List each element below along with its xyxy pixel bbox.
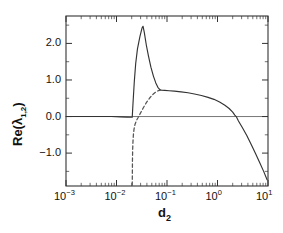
x-tick-label-4: 101 [256,190,272,202]
figure-container: 10−310−210−1100101 −1.00.01.02.0 d2 Re(λ… [0,0,283,233]
x-axis-major-ticks [66,16,268,186]
y-tick-label-2: 1.0 [28,73,61,85]
series-line-1 [132,90,160,185]
y-axis-minor-ticks [66,25,268,171]
data-series-group [66,26,267,185]
y-tick-label-3: 2.0 [28,36,61,48]
y-axis-title: Re(λ1,2) [10,102,25,146]
series-line-0 [66,26,267,180]
x-tick-label-2: 10−1 [155,190,176,202]
plot-frame [66,16,268,186]
x-tick-label-0: 10−3 [54,190,75,202]
y-tick-label-0: −1.0 [28,146,61,158]
x-tick-label-1: 10−2 [105,190,126,202]
x-axis-minor-ticks [81,16,265,186]
y-axis-major-ticks [66,43,268,153]
y-tick-label-1: 0.0 [28,110,61,122]
x-tick-label-3: 100 [206,190,222,202]
x-axis-title: d2 [158,205,171,220]
